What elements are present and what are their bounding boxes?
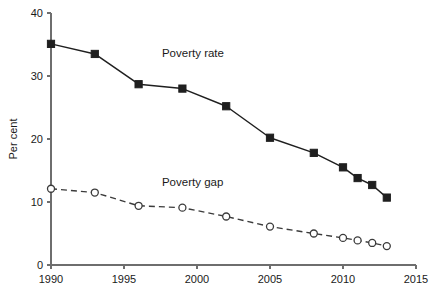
line-chart: 010203040 199019952000200520102015 Pover… — [0, 0, 438, 306]
x-axis: 199019952000200520102015 — [39, 265, 428, 285]
data-point-marker — [267, 223, 274, 230]
y-axis-title: Per cent — [7, 119, 19, 160]
data-point-marker — [310, 149, 317, 156]
data-point-marker — [354, 174, 361, 181]
series-labels: Poverty ratePoverty gap — [162, 47, 224, 188]
data-point-marker — [369, 239, 376, 246]
x-tick-label: 2015 — [404, 273, 428, 285]
series-path — [51, 189, 387, 246]
x-tick-label: 2010 — [331, 273, 355, 285]
data-point-marker — [179, 85, 186, 92]
y-tick-label: 0 — [37, 259, 43, 271]
data-point-marker — [135, 81, 142, 88]
x-tick-label: 1995 — [112, 273, 136, 285]
y-tick-label: 40 — [31, 7, 43, 19]
data-point-marker — [47, 40, 54, 47]
x-tick-label: 2005 — [258, 273, 282, 285]
data-point-marker — [223, 213, 230, 220]
data-point-marker — [266, 134, 273, 141]
data-point-marker — [91, 189, 98, 196]
series-path — [51, 44, 387, 198]
x-tick-label: 2000 — [185, 273, 209, 285]
data-point-marker — [91, 50, 98, 57]
x-tick-label: 1990 — [39, 273, 63, 285]
data-point-marker — [48, 185, 55, 192]
data-point-marker — [310, 230, 317, 237]
data-point-marker — [369, 181, 376, 188]
data-point-marker — [135, 202, 142, 209]
data-point-marker — [223, 103, 230, 110]
data-point-marker — [340, 234, 347, 241]
series-label-poverty-rate: Poverty rate — [162, 47, 224, 59]
data-point-marker — [383, 194, 390, 201]
data-point-marker — [179, 204, 186, 211]
data-point-marker — [339, 164, 346, 171]
data-point-marker — [354, 237, 361, 244]
y-tick-label: 10 — [31, 196, 43, 208]
y-tick-label: 20 — [31, 133, 43, 145]
data-point-marker — [383, 243, 390, 250]
series-layer — [47, 40, 390, 249]
chart-container: 010203040 199019952000200520102015 Pover… — [0, 0, 438, 306]
y-tick-label: 30 — [31, 70, 43, 82]
series-label-poverty-gap: Poverty gap — [162, 176, 223, 188]
